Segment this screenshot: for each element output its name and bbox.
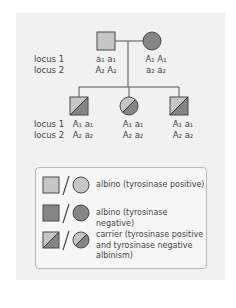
child3-locus2: A₂ a₂ [163, 130, 203, 141]
father-locus1: a₁ a₁ [86, 54, 126, 65]
locus1-label: locus 1 [34, 54, 64, 65]
father-locus2: A₂ A₂ [86, 65, 126, 76]
legend-label-albino-positive: albino (tyrosinase positive) [96, 180, 204, 191]
child-locus2-label: locus 2 [34, 130, 64, 141]
child3-carrier-square-icon [170, 97, 188, 115]
mother-locus2: a₂ a₂ [136, 65, 176, 76]
child1-locus2: A₂ a₂ [63, 130, 103, 141]
mother-symbol-circle-icon [143, 32, 161, 50]
locus2-label: locus 2 [34, 65, 64, 76]
legend-label-albino-negative: albino (tyrosinase negative) [96, 208, 206, 229]
legend-albino-positive-icon [43, 176, 89, 195]
father-symbol-square-icon [97, 32, 115, 50]
legend-label-carrier-line3: albinism) [96, 251, 133, 262]
child1-carrier-square-icon [70, 97, 88, 115]
legend-label-carrier-line1: carrier (tyrosinase positive [96, 230, 203, 241]
legend-carrier-icon [43, 231, 90, 250]
mother-locus1: A₁ A₁ [136, 54, 176, 65]
child2-locus2: A₂ a₂ [113, 130, 153, 141]
child2-locus1: A₁ a₁ [113, 119, 153, 130]
child3-locus1: A₁ a₁ [163, 119, 203, 130]
legend-label-carrier-line2: and tyrosinase negative [96, 241, 192, 252]
legend-box: albino (tyrosinase positive) albino (tyr… [35, 167, 207, 269]
child-locus1-label: locus 1 [34, 119, 64, 130]
child2-carrier-circle-icon [118, 95, 140, 117]
legend-albino-negative-icon [43, 204, 89, 223]
child1-locus1: A₁ a₁ [63, 119, 103, 130]
